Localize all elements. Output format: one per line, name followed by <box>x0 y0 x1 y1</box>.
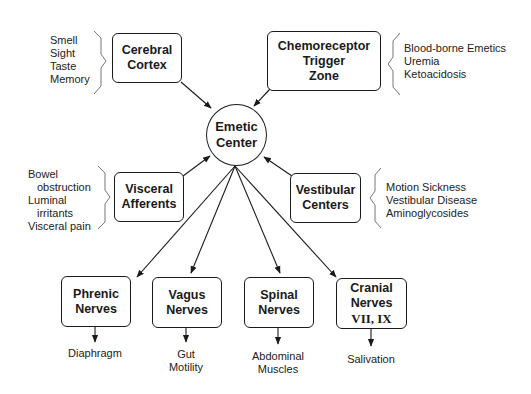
arrow-center-to-spinal <box>235 166 280 273</box>
trigger-item: Smell <box>50 34 90 47</box>
node-label: Centers <box>302 198 349 213</box>
trigger-item: Aminoglycosides <box>386 207 477 220</box>
node-label: Nerves <box>258 303 300 318</box>
trigger-item: Memory <box>50 73 90 86</box>
cerebral-triggers: Smell Sight Taste Memory <box>50 34 90 86</box>
trigger-item: Ketoacidosis <box>404 68 506 81</box>
brace-ctz <box>388 33 400 95</box>
trigger-item: Sight <box>50 47 90 60</box>
effect-item: Motility <box>146 361 226 374</box>
node-label: Visceral <box>125 182 173 197</box>
node-label: VII, IX <box>351 311 391 326</box>
phrenic-effect: Diaphragm <box>55 347 135 360</box>
cranial-nerves-node: Cranial Nerves VII, IX <box>336 278 407 329</box>
ctz-node: Chemoreceptor Trigger Zone <box>267 31 381 91</box>
trigger-item: Luminal <box>28 194 91 207</box>
effect-item: Gut <box>146 348 226 361</box>
node-label: Vagus <box>169 288 206 303</box>
node-label: Zone <box>309 69 339 84</box>
effect-item: Salivation <box>331 353 411 366</box>
brace-vestibular <box>370 168 381 228</box>
center-label-line1: Emetic <box>215 119 258 135</box>
spinal-nerves-node: Spinal Nerves <box>244 277 314 328</box>
trigger-item: obstruction <box>28 181 91 194</box>
arrow-vestibular-to-center <box>264 157 292 176</box>
trigger-item: Blood-borne Emetics <box>404 42 506 55</box>
trigger-item: Bowel <box>28 168 91 181</box>
node-label: Vestibular <box>296 183 356 198</box>
visceral-triggers: Bowel obstruction Luminal irritants Visc… <box>28 168 91 233</box>
node-label: Cortex <box>127 58 167 73</box>
node-label: Phrenic <box>73 287 119 302</box>
trigger-item: Motion Sickness <box>386 181 477 194</box>
trigger-item: Taste <box>50 60 90 73</box>
node-label: Cerebral <box>122 43 173 58</box>
node-label: Nerves <box>166 303 208 318</box>
cranial-effect: Salivation <box>331 353 411 366</box>
arrow-center-to-vagus <box>191 166 235 273</box>
effect-item: Diaphragm <box>55 347 135 360</box>
vestibular-triggers: Motion Sickness Vestibular Disease Amino… <box>386 181 477 220</box>
node-label: Cranial <box>350 281 392 296</box>
node-label: Afferents <box>122 197 177 212</box>
vagus-effect: Gut Motility <box>146 348 226 374</box>
node-label: Nerves <box>351 296 393 311</box>
phrenic-nerves-node: Phrenic Nerves <box>61 276 131 327</box>
arrow-visceral-to-center <box>183 156 210 176</box>
emetic-center-node: Emetic Center <box>206 104 267 166</box>
effect-item: Muscles <box>238 363 318 376</box>
brace-cerebral <box>94 31 106 94</box>
brace-visceral <box>98 166 110 229</box>
ctz-triggers: Blood-borne Emetics Uremia Ketoacidosis <box>404 42 506 81</box>
node-label: Chemoreceptor <box>278 39 370 54</box>
trigger-item: Vestibular Disease <box>386 194 477 207</box>
center-label-line2: Center <box>216 135 257 151</box>
arrow-ctz-to-center <box>254 89 270 106</box>
trigger-item: irritants <box>28 207 91 220</box>
arrow-cerebral-to-center <box>181 82 211 108</box>
trigger-item: Visceral pain <box>28 220 91 233</box>
spinal-effect: Abdominal Muscles <box>238 350 318 376</box>
vagus-nerves-node: Vagus Nerves <box>152 277 222 328</box>
effect-item: Abdominal <box>238 350 318 363</box>
trigger-item: Uremia <box>404 55 506 68</box>
vestibular-centers-node: Vestibular Centers <box>290 173 361 223</box>
node-label: Nerves <box>75 302 117 317</box>
node-label: Spinal <box>260 288 298 303</box>
node-label: Trigger <box>303 54 345 69</box>
visceral-afferents-node: Visceral Afferents <box>114 172 184 222</box>
cerebral-cortex-node: Cerebral Cortex <box>112 33 182 83</box>
